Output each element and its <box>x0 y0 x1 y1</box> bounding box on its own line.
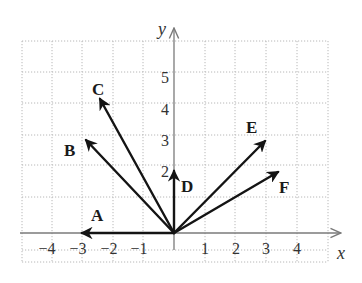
vector-label-c: C <box>92 80 104 99</box>
y-tick-label: 3 <box>161 132 169 149</box>
x-tick-label: −3 <box>69 240 86 257</box>
vector-label-b: B <box>64 141 75 160</box>
y-tick-label: 5 <box>161 69 169 86</box>
x-tick-label: 4 <box>293 240 301 257</box>
y-axis-label: y <box>156 19 166 39</box>
x-tick-label: 3 <box>262 240 270 257</box>
x-axis-label: x <box>336 243 345 263</box>
vector-label-d: D <box>181 177 193 196</box>
y-tick-labels: 2 3 4 5 <box>161 69 169 180</box>
x-tick-label: −4 <box>38 240 55 257</box>
x-tick-labels: −4 −3 −2 −1 1 2 3 4 <box>38 240 301 257</box>
vector-diagram: x y −4 −3 −2 −1 1 2 3 4 2 3 4 5 A B C D … <box>0 0 362 283</box>
vector-label-f: F <box>279 178 289 197</box>
x-tick-label: −2 <box>100 240 117 257</box>
y-tick-label: 2 <box>161 163 169 180</box>
vector-label-a: A <box>91 206 104 225</box>
vector-label-e: E <box>246 118 257 137</box>
x-tick-label: 2 <box>232 240 240 257</box>
y-tick-label: 4 <box>161 101 169 118</box>
x-tick-label: −1 <box>130 240 147 257</box>
x-tick-label: 1 <box>201 240 209 257</box>
